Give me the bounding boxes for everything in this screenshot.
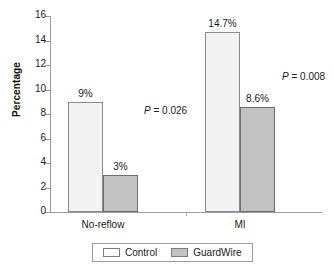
p-value-annotation-no-reflow: P = 0.026 xyxy=(144,105,187,116)
legend-entry-control: Control xyxy=(103,247,157,258)
bar-guardwire-no-reflow xyxy=(103,175,138,212)
bar-value-label: 9% xyxy=(78,88,92,99)
p-value-annotation-mi: P = 0.008 xyxy=(282,71,325,82)
bar-control-no-reflow xyxy=(68,102,103,212)
y-tick-label: 12 xyxy=(35,58,46,69)
y-tick-label: 4 xyxy=(40,156,46,167)
legend-label-control: Control xyxy=(125,247,157,258)
legend-entry-guardwire: GuardWire xyxy=(171,247,241,258)
legend-label-guardwire: GuardWire xyxy=(193,247,241,258)
legend-swatch-control-icon xyxy=(103,248,120,257)
y-tick-label: 8 xyxy=(40,107,46,118)
y-axis-title: Percentage xyxy=(11,42,22,138)
y-axis-line xyxy=(50,16,51,213)
x-category-label: MI xyxy=(234,219,245,230)
legend-swatch-guardwire-icon xyxy=(171,248,188,257)
x-axis-mid-tick xyxy=(186,212,187,216)
y-tick-label: 2 xyxy=(40,181,46,192)
y-tick-label: 10 xyxy=(35,83,46,94)
bar-control-mi xyxy=(205,32,240,212)
y-tick-label: 14 xyxy=(35,34,46,45)
bar-value-label: 3% xyxy=(113,161,127,172)
chart-legend: Control GuardWire xyxy=(92,243,253,262)
plot-area: 0246810121416 9%3%14.7%8.6% P = 0.026 P … xyxy=(50,16,322,212)
bar-guardwire-mi xyxy=(240,107,275,212)
y-tick-label: 6 xyxy=(40,132,46,143)
y-tick-label: 16 xyxy=(35,9,46,20)
y-tick-label: 0 xyxy=(40,205,46,216)
bar-value-label: 14.7% xyxy=(208,18,236,29)
bar-value-label: 8.6% xyxy=(246,93,269,104)
bar-chart: Percentage 0246810121416 9%3%14.7%8.6% P… xyxy=(0,0,334,273)
x-category-label: No-reflow xyxy=(82,219,125,230)
